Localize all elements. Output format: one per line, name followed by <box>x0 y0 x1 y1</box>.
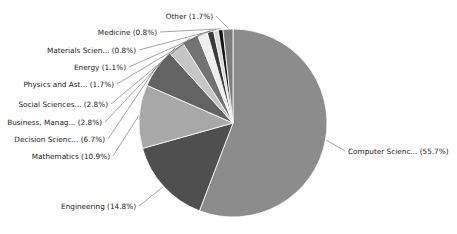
slice-label-4: Business, Manag... (2.8%) <box>7 118 102 127</box>
slice-label-10: Other (1.7%) <box>166 12 213 21</box>
pie-chart: Computer Scienc... (55.7%)Engineering (1… <box>0 0 457 234</box>
label-leader-line-10 <box>216 16 228 28</box>
slice-label-5: Social Sciences... (2.8%) <box>18 100 108 109</box>
slice-label-6: Physics and Ast... (1.7%) <box>23 80 114 89</box>
label-leader-line-0 <box>326 140 345 151</box>
slice-label-9: Medicine (0.8%) <box>98 28 157 37</box>
slice-label-8: Materials Scien... (0.8%) <box>47 46 136 55</box>
slice-label-3: Decision Scienc... (6.7%) <box>14 135 105 144</box>
slice-label-2: Mathematics (10.9%) <box>32 152 110 161</box>
slice-label-0: Computer Scienc... (55.7%) <box>348 147 449 156</box>
label-leader-line-2 <box>113 116 138 156</box>
label-leader-line-1 <box>139 187 163 206</box>
pie-chart-figure: Computer Scienc... (55.7%)Engineering (1… <box>0 0 457 234</box>
slice-label-1: Engineering (14.8%) <box>61 202 136 211</box>
slice-label-7: Energy (1.1%) <box>74 63 126 72</box>
